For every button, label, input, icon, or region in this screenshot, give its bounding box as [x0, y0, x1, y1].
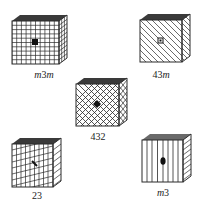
label-part: 43: [152, 69, 162, 80]
label-m3m: m3m: [24, 69, 64, 81]
label-432: 432: [78, 131, 118, 143]
cubic-symmetry-diagram: [0, 0, 208, 203]
cube-43m: [140, 13, 190, 66]
label-part: m: [34, 69, 41, 80]
twofold-axis-icon: [160, 157, 165, 165]
label-part: 23: [32, 190, 42, 201]
cube-top-face: [12, 15, 67, 21]
label-43m: 43m: [141, 69, 181, 81]
cube-432: [42, 78, 159, 126]
label-part: 3: [164, 187, 169, 198]
cube-23: [12, 138, 61, 198]
cube-m3: [142, 134, 191, 182]
cube-m3m: [12, 15, 67, 64]
fourfold-axis-icon: [32, 39, 38, 45]
label-part: m: [47, 69, 54, 80]
label-m3: m3: [143, 187, 183, 199]
label-part: m: [162, 69, 169, 80]
label-part: 432: [91, 131, 106, 142]
label-23: 23: [17, 190, 57, 202]
cube-top-face: [76, 78, 127, 84]
